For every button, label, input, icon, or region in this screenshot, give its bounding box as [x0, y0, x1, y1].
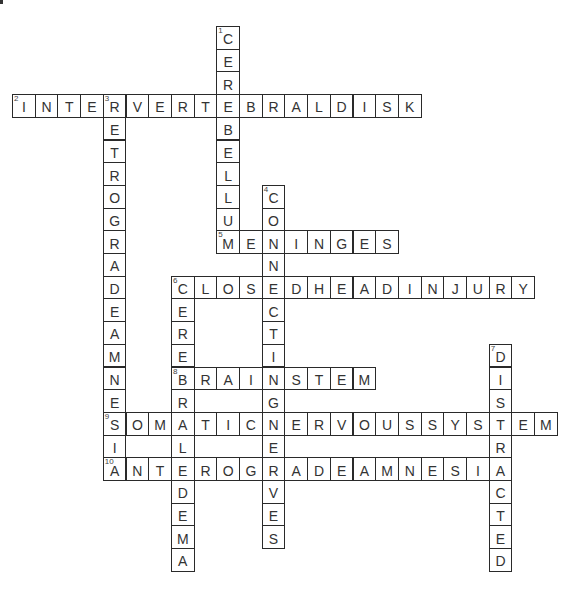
grid-cell[interactable]: I: [262, 344, 286, 368]
grid-cell[interactable]: N: [103, 367, 127, 391]
grid-cell[interactable]: L: [216, 162, 240, 186]
grid-cell[interactable]: G: [330, 230, 354, 254]
grid-cell[interactable]: S: [466, 412, 490, 436]
grid-cell[interactable]: E: [171, 503, 195, 527]
grid-cell[interactable]: C: [489, 480, 513, 504]
grid-cell[interactable]: 8B: [171, 367, 195, 391]
grid-cell[interactable]: A: [284, 457, 308, 481]
grid-cell[interactable]: A: [171, 548, 195, 572]
grid-cell[interactable]: L: [307, 94, 331, 118]
grid-cell[interactable]: G: [239, 457, 263, 481]
grid-cell[interactable]: S: [489, 389, 513, 413]
grid-cell[interactable]: E: [262, 435, 286, 459]
grid-cell[interactable]: 7D: [489, 344, 513, 368]
grid-cell[interactable]: N: [262, 367, 286, 391]
grid-cell[interactable]: E: [171, 298, 195, 322]
grid-cell[interactable]: T: [489, 503, 513, 527]
grid-cell[interactable]: R: [171, 94, 195, 118]
grid-cell[interactable]: E: [103, 298, 127, 322]
grid-cell[interactable]: T: [57, 94, 81, 118]
grid-cell[interactable]: A: [171, 412, 195, 436]
grid-cell[interactable]: T: [262, 321, 286, 345]
grid-cell[interactable]: I: [353, 94, 377, 118]
grid-cell[interactable]: B: [216, 117, 240, 141]
grid-cell[interactable]: E: [216, 140, 240, 164]
grid-cell[interactable]: 1C: [216, 26, 240, 50]
grid-cell[interactable]: E: [330, 276, 354, 300]
grid-cell[interactable]: S: [262, 525, 286, 549]
grid-cell[interactable]: H: [307, 276, 331, 300]
grid-cell[interactable]: S: [443, 457, 467, 481]
grid-cell[interactable]: O: [262, 208, 286, 232]
grid-cell[interactable]: D: [171, 480, 195, 504]
grid-cell[interactable]: M: [103, 344, 127, 368]
grid-cell[interactable]: N: [126, 457, 150, 481]
grid-cell[interactable]: N: [35, 94, 59, 118]
grid-cell[interactable]: N: [262, 230, 286, 254]
grid-cell[interactable]: A: [103, 321, 127, 345]
grid-cell[interactable]: R: [194, 457, 218, 481]
grid-cell[interactable]: 10A: [103, 457, 127, 481]
grid-cell[interactable]: R: [194, 367, 218, 391]
grid-cell[interactable]: R: [262, 94, 286, 118]
grid-cell[interactable]: E: [489, 525, 513, 549]
grid-cell[interactable]: R: [489, 435, 513, 459]
grid-cell[interactable]: I: [216, 412, 240, 436]
grid-cell[interactable]: R: [262, 457, 286, 481]
grid-cell[interactable]: A: [216, 367, 240, 391]
grid-cell[interactable]: E: [80, 94, 104, 118]
grid-cell[interactable]: E: [511, 412, 535, 436]
grid-cell[interactable]: T: [489, 412, 513, 436]
grid-cell[interactable]: L: [216, 185, 240, 209]
grid-cell[interactable]: Y: [511, 276, 535, 300]
grid-cell[interactable]: S: [239, 276, 263, 300]
grid-cell[interactable]: M: [534, 412, 558, 436]
grid-cell[interactable]: E: [171, 344, 195, 368]
grid-cell[interactable]: V: [330, 412, 354, 436]
grid-cell[interactable]: E: [171, 457, 195, 481]
grid-cell[interactable]: S: [375, 94, 399, 118]
grid-cell[interactable]: R: [307, 412, 331, 436]
grid-cell[interactable]: R: [171, 389, 195, 413]
grid-cell[interactable]: E: [421, 457, 445, 481]
grid-cell[interactable]: S: [284, 367, 308, 391]
grid-cell[interactable]: E: [330, 367, 354, 391]
grid-cell[interactable]: S: [375, 230, 399, 254]
grid-cell[interactable]: I: [398, 276, 422, 300]
grid-cell[interactable]: I: [239, 367, 263, 391]
grid-cell[interactable]: J: [443, 276, 467, 300]
grid-cell[interactable]: N: [262, 253, 286, 277]
grid-cell[interactable]: A: [353, 276, 377, 300]
grid-cell[interactable]: E: [330, 457, 354, 481]
grid-cell[interactable]: O: [216, 276, 240, 300]
grid-cell[interactable]: E: [216, 49, 240, 73]
grid-cell[interactable]: D: [284, 276, 308, 300]
grid-cell[interactable]: B: [239, 94, 263, 118]
grid-cell[interactable]: R: [103, 162, 127, 186]
grid-cell[interactable]: 9S: [103, 412, 127, 436]
grid-cell[interactable]: A: [489, 457, 513, 481]
grid-cell[interactable]: T: [194, 412, 218, 436]
grid-cell[interactable]: I: [103, 435, 127, 459]
grid-cell[interactable]: E: [216, 94, 240, 118]
grid-cell[interactable]: D: [330, 94, 354, 118]
grid-cell[interactable]: O: [103, 185, 127, 209]
grid-cell[interactable]: D: [103, 276, 127, 300]
grid-cell[interactable]: O: [126, 412, 150, 436]
grid-cell[interactable]: I: [284, 230, 308, 254]
grid-cell[interactable]: R: [216, 71, 240, 95]
grid-cell[interactable]: N: [398, 457, 422, 481]
grid-cell[interactable]: E: [239, 230, 263, 254]
grid-cell[interactable]: G: [103, 208, 127, 232]
grid-cell[interactable]: A: [353, 457, 377, 481]
grid-cell[interactable]: 3R: [103, 94, 127, 118]
grid-cell[interactable]: A: [284, 94, 308, 118]
grid-cell[interactable]: 5M: [216, 230, 240, 254]
grid-cell[interactable]: R: [171, 321, 195, 345]
grid-cell[interactable]: E: [148, 94, 172, 118]
grid-cell[interactable]: G: [262, 389, 286, 413]
grid-cell[interactable]: E: [103, 117, 127, 141]
grid-cell[interactable]: M: [375, 457, 399, 481]
grid-cell[interactable]: K: [398, 94, 422, 118]
grid-cell[interactable]: U: [216, 208, 240, 232]
